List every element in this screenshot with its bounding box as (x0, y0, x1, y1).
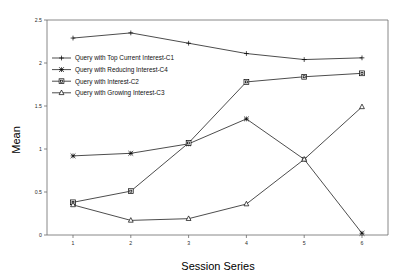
data-point-marker (128, 31, 133, 36)
x-tick-label: 6 (361, 240, 364, 246)
x-axis-ticks: 123456 (72, 235, 364, 246)
data-point-marker (186, 41, 191, 46)
legend-item: Query with Interest-C2 (52, 78, 139, 86)
plot-frame (47, 20, 388, 235)
x-tick-label: 3 (187, 240, 190, 246)
y-tick-label: 1.5 (35, 103, 42, 109)
y-tick-label: 0 (39, 232, 42, 238)
y-axis-title: Mean (10, 126, 22, 154)
data-point-marker (302, 57, 307, 62)
legend-item: Query with Top Current Interest-C1 (52, 54, 174, 62)
y-axis-ticks: 00.511.522.5 (35, 17, 47, 238)
legend-label: Query with Interest-C2 (75, 78, 139, 86)
y-tick-label: 0.5 (35, 189, 42, 195)
x-tick-label: 2 (129, 240, 132, 246)
data-point-marker (128, 151, 133, 156)
data-point-marker (360, 104, 365, 109)
legend-marker-plus-marker (59, 56, 64, 61)
x-tick-label: 4 (245, 240, 248, 246)
data-series (71, 117, 365, 236)
data-point-marker (360, 231, 365, 236)
legend-marker-square-marker (59, 79, 64, 84)
legend-label: Query with Reducing Interest-C4 (75, 66, 168, 74)
data-point-marker (360, 55, 365, 60)
legend-marker-x-marker (59, 67, 64, 72)
x-tick-label: 5 (303, 240, 306, 246)
line-chart: 00.511.522.5 123456 Query with Top Curre… (0, 0, 404, 277)
legend-marker-triangle-marker (59, 90, 64, 95)
y-tick-label: 2 (39, 60, 42, 66)
data-point-marker (186, 141, 191, 146)
data-point-marker (360, 71, 365, 76)
legend-item: Query with Reducing Interest-C4 (52, 66, 168, 74)
data-series (71, 104, 365, 222)
chart-legend: Query with Top Current Interest-C1Query … (52, 54, 174, 97)
data-point-marker (244, 117, 249, 122)
data-point-marker (302, 74, 307, 79)
data-point-marker (71, 36, 76, 41)
x-axis-title: Session Series (181, 260, 255, 272)
data-point-marker (244, 51, 249, 56)
data-point-marker (244, 201, 249, 206)
y-tick-label: 1 (39, 146, 42, 152)
data-point-marker (244, 80, 249, 85)
legend-item: Query with Growing Interest-C3 (52, 89, 165, 97)
chart-container: 00.511.522.5 123456 Query with Top Curre… (0, 0, 404, 277)
legend-label: Query with Top Current Interest-C1 (75, 54, 174, 62)
y-tick-label: 2.5 (35, 17, 42, 23)
data-point-marker (128, 189, 133, 194)
legend-label: Query with Growing Interest-C3 (75, 89, 165, 97)
data-point-marker (71, 153, 76, 158)
x-tick-label: 1 (72, 240, 75, 246)
